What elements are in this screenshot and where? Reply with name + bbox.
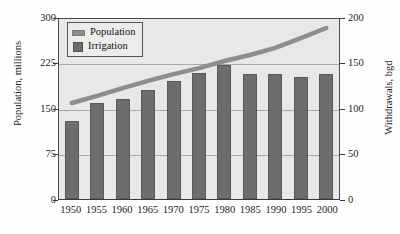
y-axis-right-tick-200: 200 [348,13,364,24]
y-axis-right-tickmark [340,18,345,19]
y-axis-left-title: Population, millions [12,24,23,144]
bar-2000 [319,74,333,199]
chart-legend: Population Irrigation [67,22,143,57]
bar-1950 [65,121,79,199]
chart-figure: 300 225 150 75 0 200 150 100 50 0 Popula… [0,0,400,234]
y-axis-right-tick-50: 50 [348,149,359,160]
y-axis-right-tickmark [340,154,345,155]
bar-1975 [192,73,206,199]
bar-1990 [268,74,282,199]
bar-1970 [167,81,181,199]
bar-1955 [90,103,104,199]
y-axis-right-tickmark [340,200,345,201]
legend-item-population: Population [72,26,136,39]
bar-1995 [294,77,308,199]
bar-1960 [116,99,130,199]
box-swatch-icon [73,42,83,52]
bar-1985 [243,74,257,199]
x-axis-tick-2000: 2000 [311,205,343,216]
bar-1980 [217,65,231,199]
bar-1965 [141,90,155,199]
legend-label-population: Population [90,27,136,38]
y-axis-right-tick-150: 150 [348,58,364,69]
legend-item-irrigation: Irrigation [72,40,136,53]
y-axis-right-tickmark [340,63,345,64]
y-axis-right-tick-0: 0 [348,195,353,206]
y-axis-left-tickmark [53,200,58,201]
line-swatch-icon [72,30,85,36]
legend-label-irrigation: Irrigation [88,41,128,52]
y-axis-right-title: Withdrawals, bgd [383,38,394,158]
y-axis-right-tickmark [340,109,345,110]
y-axis-right-tick-100: 100 [348,104,364,115]
